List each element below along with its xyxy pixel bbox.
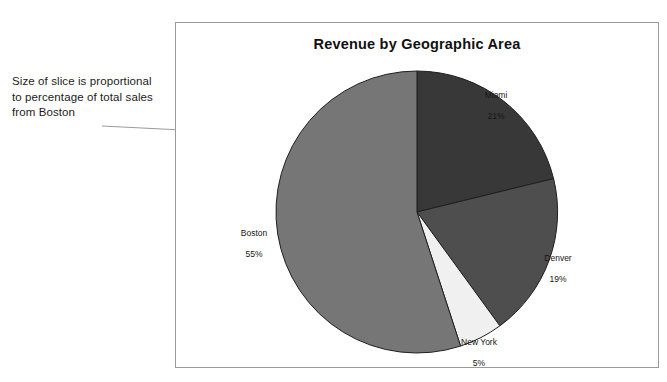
slice-label-denver-name: Denver [528,253,588,264]
chart-frame: Revenue by Geographic Area Miami 21% Den… [175,22,659,368]
slice-label-miami-name: Miami [466,90,526,101]
annotation-note: Size of slice is proportional to percent… [12,74,187,121]
slice-label-newyork-name: New York [448,337,510,348]
slice-label-denver-percent: 19% [528,274,588,285]
slice-label-newyork: New York 5% [448,326,510,379]
slice-label-miami-percent: 21% [466,111,526,122]
slice-label-newyork-percent: 5% [448,358,510,369]
slice-label-boston-percent: 55% [224,249,284,260]
pie-chart: Miami 21% Denver 19% New York 5% Boston … [176,23,660,369]
slice-label-boston-name: Boston [224,228,284,239]
pie-svg [176,23,660,369]
screenshot-root: Size of slice is proportional to percent… [0,0,667,382]
slice-label-denver: Denver 19% [528,242,588,295]
slice-label-boston: Boston 55% [224,217,284,270]
slice-label-miami: Miami 21% [466,79,526,132]
